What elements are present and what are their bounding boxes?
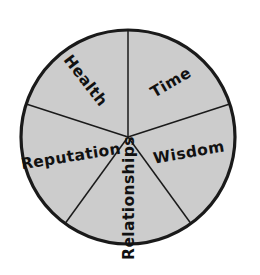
wheel-svg: TimeWisdomRelationshipsReputationHealth <box>0 0 260 275</box>
wheel-diagram-figure: TimeWisdomRelationshipsReputationHealth <box>0 0 260 275</box>
sector-label-relationships: Relationships <box>120 136 138 260</box>
